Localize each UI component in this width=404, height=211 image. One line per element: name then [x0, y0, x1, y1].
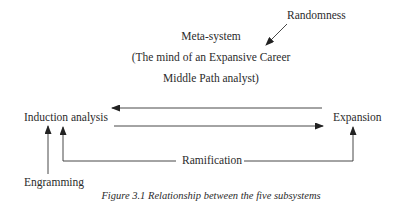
randomness-label: Randomness [287, 10, 346, 22]
induction-analysis-label: Induction analysis [24, 112, 108, 124]
ramification-left-connector [63, 127, 176, 161]
meta-system-title: Meta-system [181, 31, 240, 43]
ramification-label: Ramification [182, 155, 242, 167]
meta-system-line2: (The mind of an Expansive Career [132, 52, 291, 64]
engramming-label: Engramming [24, 177, 84, 189]
expansion-label: Expansion [333, 112, 382, 124]
meta-system-line3: Middle Path analyst) [163, 73, 259, 85]
figure-caption: Figure 3.1 Relationship between the five… [101, 191, 320, 202]
randomness-arrow [266, 24, 287, 45]
ramification-right-connector [244, 127, 353, 161]
